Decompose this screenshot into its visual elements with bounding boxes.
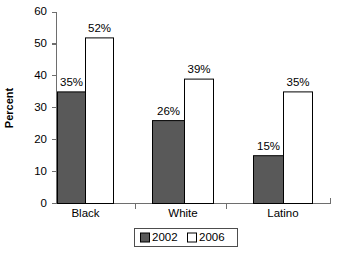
bar-label-2006-latino: 35% bbox=[286, 76, 309, 88]
y-tick-label: 60 bbox=[34, 5, 47, 17]
legend-swatch-2002[interactable] bbox=[141, 233, 150, 242]
bar-2002-black[interactable] bbox=[58, 92, 86, 204]
y-axis-title: Percent bbox=[3, 87, 15, 128]
bar-label-2002-white: 26% bbox=[157, 105, 180, 117]
bar-label-2006-black: 52% bbox=[88, 22, 111, 34]
bar-2002-white[interactable] bbox=[153, 121, 185, 204]
y-tick-label: 30 bbox=[34, 101, 47, 113]
legend-swatch-2006[interactable] bbox=[188, 233, 197, 242]
chart-legend: 2002 2006 bbox=[135, 229, 238, 247]
x-tick-label-latino: Latino bbox=[267, 207, 298, 219]
bar-label-2002-latino: 15% bbox=[257, 140, 280, 152]
bar-2002-latino[interactable] bbox=[254, 156, 284, 204]
y-tick-label: 0 bbox=[41, 197, 47, 209]
bar-label-2006-white: 39% bbox=[187, 63, 210, 75]
bar-2006-black[interactable] bbox=[86, 38, 114, 204]
bar-2006-latino[interactable] bbox=[284, 92, 313, 204]
y-tick-label: 10 bbox=[34, 165, 47, 177]
legend-label-2006: 2006 bbox=[199, 231, 225, 243]
y-tick-label: 20 bbox=[34, 133, 47, 145]
legend-label-2002: 2002 bbox=[152, 231, 178, 243]
bar-2006-white[interactable] bbox=[185, 79, 214, 203]
bar-label-2002-black: 35% bbox=[60, 76, 83, 88]
x-tick-label-white: White bbox=[168, 207, 197, 219]
y-tick-label: 40 bbox=[34, 69, 47, 81]
chart-canvas: 0 10 20 30 40 50 60 Percent 35% 52% Blac… bbox=[0, 0, 337, 253]
x-tick-label-black: Black bbox=[71, 207, 99, 219]
bar-chart: 0 10 20 30 40 50 60 Percent 35% 52% Blac… bbox=[0, 0, 337, 253]
y-tick-label: 50 bbox=[34, 37, 47, 49]
